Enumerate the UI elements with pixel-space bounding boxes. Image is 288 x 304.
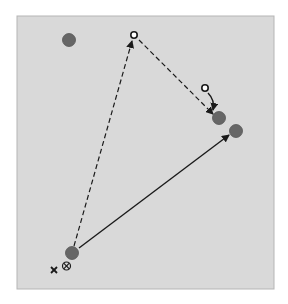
vector-diagram xyxy=(0,0,288,304)
panel-background xyxy=(17,16,274,289)
open-circle-small xyxy=(202,85,208,91)
dot-target-b xyxy=(230,125,243,138)
dot-target-a xyxy=(213,112,226,125)
open-circle-top xyxy=(131,32,137,38)
dot-top-left xyxy=(63,34,76,47)
dot-origin xyxy=(66,247,79,260)
